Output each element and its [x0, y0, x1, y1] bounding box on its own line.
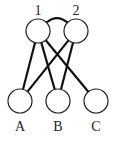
- nodes: [8, 19, 108, 113]
- node-label-B: B: [53, 119, 62, 134]
- node-label-A: A: [15, 119, 26, 134]
- node-label-1: 1: [35, 3, 42, 18]
- node-C: [84, 89, 108, 113]
- node-label-C: C: [91, 119, 100, 134]
- node-label-2: 2: [73, 3, 80, 18]
- node-1: [26, 19, 50, 43]
- arc-1-2: [46, 18, 67, 23]
- bipartite-diagram: 12ABC: [0, 0, 117, 141]
- edges: [23, 39, 89, 92]
- node-A: [8, 89, 32, 113]
- node-2: [64, 19, 88, 43]
- node-B: [46, 89, 70, 113]
